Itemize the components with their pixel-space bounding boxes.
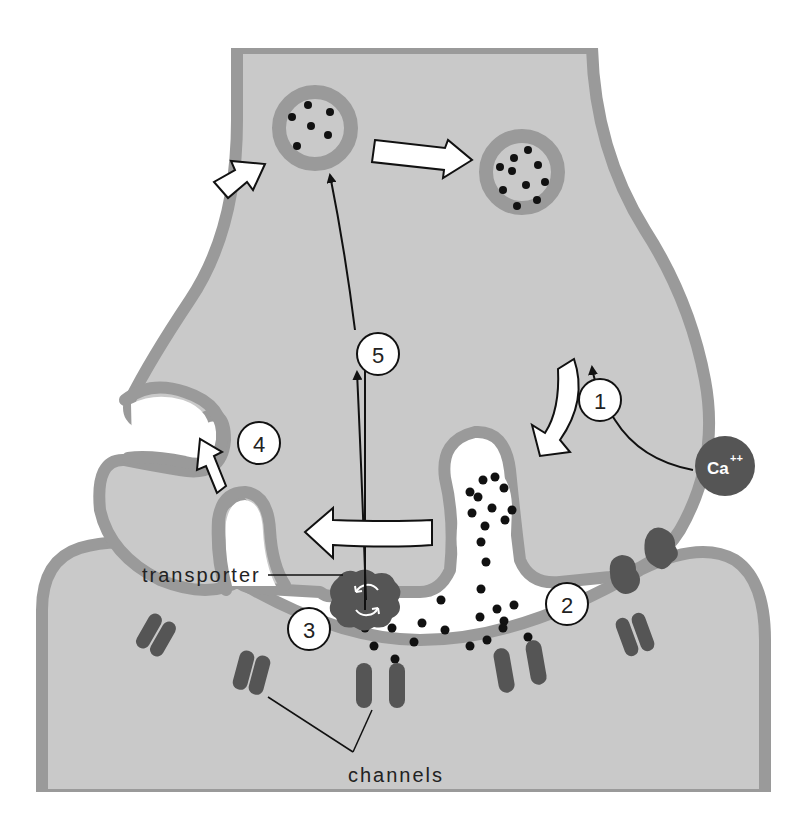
step-5-label: 5 <box>372 343 384 368</box>
channels-label: channels <box>348 764 444 786</box>
step-1-label: 1 <box>594 389 606 414</box>
vesicle-filled-left <box>279 92 351 164</box>
step-3-badge: 3 <box>288 608 330 650</box>
step-2-badge: 2 <box>546 583 588 625</box>
step-1-badge: 1 <box>579 379 621 421</box>
vesicle-filled-right <box>486 136 558 210</box>
step-3-label: 3 <box>303 618 315 643</box>
calcium-label: Ca <box>707 459 729 478</box>
synapse-diagram: Ca ++ 1 2 3 <box>0 0 808 833</box>
presynaptic-terminal <box>99 36 709 596</box>
calcium-charge-label: ++ <box>730 452 743 464</box>
step-4-badge: 4 <box>238 422 280 464</box>
transporter-label: transporter <box>142 564 261 586</box>
step-4-label: 4 <box>253 432 265 457</box>
step-5-badge: 5 <box>357 333 399 375</box>
step-2-label: 2 <box>561 593 573 618</box>
calcium-ion: Ca ++ <box>695 436 755 496</box>
